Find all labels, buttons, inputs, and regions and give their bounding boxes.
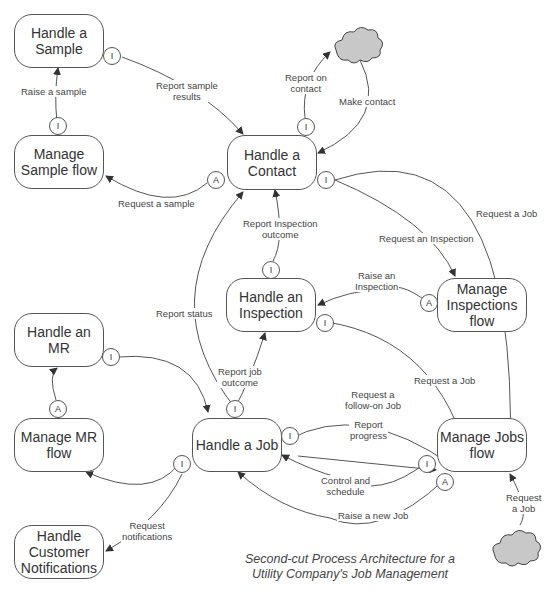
port-interaction: I — [262, 261, 280, 279]
port-interaction: I — [173, 455, 191, 473]
cloud-icon — [493, 530, 541, 566]
edge-report-progress — [298, 456, 436, 470]
label-report-status: Report status — [155, 308, 214, 319]
port-activation: A — [207, 171, 225, 189]
edge-activate-mr — [52, 368, 57, 400]
edge-job-to-mr-flow — [86, 465, 178, 484]
port-interaction: I — [102, 348, 120, 366]
port-interaction: I — [49, 117, 67, 135]
label-report-inspection-outcome: Report Inspection outcome — [242, 218, 318, 240]
edge-request-inspection — [335, 180, 455, 276]
label-request-inspection: Request an Inspection — [378, 233, 475, 244]
node-handle-customer-notifications[interactable]: Handle Customer Notifications — [14, 525, 104, 579]
label-make-contact: Make contact — [338, 96, 397, 107]
label-control-schedule: Control and schedule — [320, 475, 371, 497]
node-handle-job[interactable]: Handle a Job — [192, 418, 282, 472]
port-interaction: I — [226, 400, 244, 418]
label-report-sample-results: Report sample results — [155, 80, 219, 102]
port-activation: A — [420, 294, 438, 312]
port-interaction: I — [317, 171, 335, 189]
port-activation: A — [49, 400, 67, 418]
cloud-icon — [335, 27, 383, 63]
node-handle-mr[interactable]: Handle an MR — [14, 313, 104, 367]
node-handle-sample[interactable]: Handle a Sample — [14, 14, 104, 68]
diagram-caption: Second-cut Process Architecture for a Ut… — [200, 552, 500, 582]
label-request-notifications: Request notifications — [121, 520, 173, 542]
label-request-job-inspection: Request a Job — [413, 375, 476, 386]
port-interaction: I — [281, 427, 299, 445]
node-handle-contact[interactable]: Handle a Contact — [227, 135, 317, 190]
label-request-job-external: Request a Job — [505, 492, 542, 514]
port-interaction: I — [418, 455, 436, 473]
label-report-progress: Report progress — [349, 419, 388, 441]
port-interaction: I — [103, 47, 121, 65]
label-report-job-outcome: Report job outcome — [217, 366, 263, 388]
node-manage-inspections-flow[interactable]: Manage Inspections flow — [437, 278, 527, 332]
label-raise-sample: Raise a sample — [20, 86, 87, 97]
edge-mr-to-job — [118, 356, 208, 412]
port-activation: A — [436, 473, 454, 491]
node-handle-inspection[interactable]: Handle an Inspection — [226, 278, 316, 332]
node-manage-mr-flow[interactable]: Manage MR flow — [14, 418, 104, 472]
edge-request-sample — [106, 176, 207, 197]
node-manage-jobs-flow[interactable]: Manage Jobs flow — [437, 418, 527, 472]
label-raise-inspection: Raise an Inspection — [354, 270, 399, 292]
port-interaction: I — [297, 118, 315, 136]
port-interaction: I — [316, 314, 334, 332]
label-request-job-contact: Request a Job — [475, 208, 538, 219]
label-raise-new-job: Raise a new Job — [337, 510, 409, 521]
label-report-on-contact: Report on contact — [284, 72, 328, 94]
node-manage-sample-flow[interactable]: Manage Sample flow — [14, 135, 104, 189]
label-request-followon-job: Request a follow-on Job — [344, 389, 402, 411]
label-request-sample: Request a sample — [117, 198, 196, 209]
